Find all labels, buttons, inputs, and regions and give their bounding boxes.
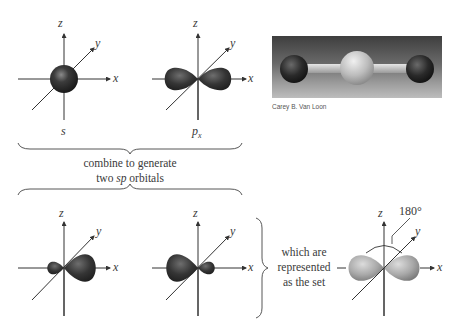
px-z-label: z <box>193 16 198 31</box>
sp1-small-lobe <box>47 262 64 275</box>
center-atom-ball <box>340 51 374 85</box>
sp1-x-label: x <box>113 260 118 275</box>
angle-180-label: 180° <box>399 204 422 219</box>
px-lobe-right <box>198 68 231 91</box>
sp2-y-label: y <box>230 224 235 239</box>
top-brace <box>18 143 242 154</box>
photo-credit: Carey B. Van Loon <box>272 103 326 110</box>
sp1-large-lobe <box>64 254 96 282</box>
combine-caption: combine to generate two sp orbitals <box>60 156 200 186</box>
px-lobe-left <box>165 68 198 91</box>
angle-leader <box>392 218 410 244</box>
sp1-y-label: y <box>96 224 101 239</box>
right-brace <box>256 218 268 318</box>
caption-line-2: two sp orbitals <box>60 171 200 186</box>
right-atom-ball <box>406 55 434 83</box>
px-x-label: x <box>248 71 253 86</box>
px-label-sub: x <box>198 131 202 140</box>
s-orbital-label: s <box>61 124 66 139</box>
set-z-label: z <box>378 206 383 221</box>
px-orbital-label: px <box>192 124 202 140</box>
sp2-large-lobe <box>166 254 198 282</box>
sp2-x-label: x <box>248 260 253 275</box>
sp2-small-lobe <box>198 262 215 275</box>
sp-set-left-lobe <box>349 255 385 281</box>
set-y-label: y <box>415 224 420 239</box>
molecule-model-photo <box>272 36 442 98</box>
px-y-label: y <box>230 36 235 51</box>
s-x-label: x <box>113 71 118 86</box>
sp2-z-label: z <box>193 206 198 221</box>
sp1-z-label: z <box>59 206 64 221</box>
represented-caption: which are represented as the set <box>270 245 338 290</box>
caption-line-1: combine to generate <box>60 156 200 171</box>
set-x-label: x <box>437 260 442 275</box>
sp-set-right-lobe <box>384 255 420 281</box>
s-orbital-sphere <box>50 65 78 93</box>
left-atom-ball <box>280 55 308 83</box>
s-y-label: y <box>95 36 100 51</box>
sp-italic: sp <box>116 172 126 184</box>
ball-and-stick-model <box>272 36 442 98</box>
s-z-label: z <box>58 16 63 31</box>
